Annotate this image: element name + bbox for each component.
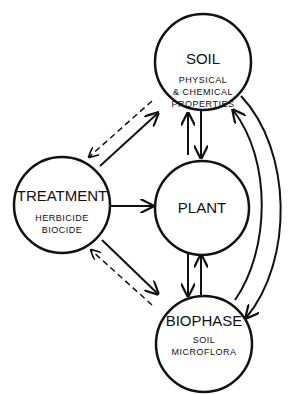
soil-title: SOIL <box>186 50 220 67</box>
node-plant: PLANT <box>155 161 249 255</box>
biophase-line-2: MICROFLORA <box>171 347 236 357</box>
treatment-line-1: HERBICIDE <box>35 213 89 223</box>
node-treatment: TREATMENT HERBICIDE BIOCIDE <box>14 157 110 253</box>
biophase-title: BIOPHASE <box>166 312 243 329</box>
treatment-line-2: BIOCIDE <box>42 225 83 235</box>
soil-line-1: PHYSICAL <box>179 75 228 85</box>
biophase-line-1: SOIL <box>193 335 216 345</box>
edge-treatment-to-biophase <box>102 240 158 294</box>
flow-diagram: SOIL PHYSICAL & CHEMICAL PROPERTIES TREA… <box>0 0 294 394</box>
treatment-title: TREATMENT <box>17 187 108 204</box>
plant-title: PLANT <box>178 199 226 216</box>
node-soil: SOIL PHYSICAL & CHEMICAL PROPERTIES <box>155 14 251 110</box>
soil-line-3: PROPERTIES <box>172 99 235 109</box>
node-biophase: BIOPHASE SOIL MICROFLORA <box>156 296 252 392</box>
soil-line-2: & CHEMICAL <box>173 87 233 97</box>
